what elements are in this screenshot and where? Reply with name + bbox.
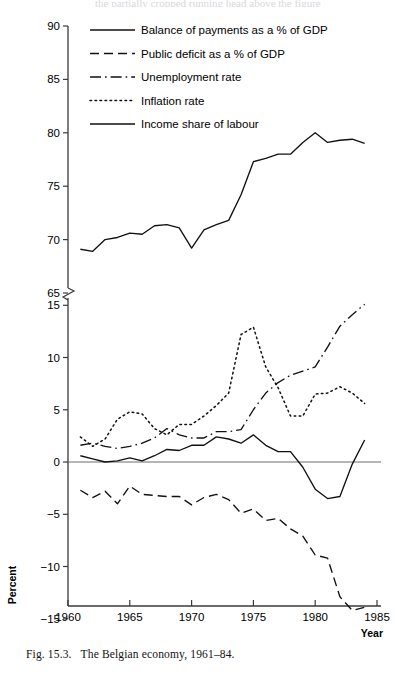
y-tick-label-lower: 10: [47, 352, 60, 364]
axes-layer: [63, 26, 381, 619]
legend-layer: Balance of payments as a % of GDPPublic …: [90, 24, 328, 130]
legend-label-3: Inflation rate: [141, 95, 204, 107]
x-tick-label: 1965: [117, 611, 143, 623]
figure-container: the partially cropped running head above…: [0, 0, 395, 677]
belgian-economy-line-chart: Balance of payments as a % of GDPPublic …: [0, 0, 395, 640]
y-tick-label-upper: 80: [47, 127, 60, 139]
y-tick-label-upper: 65: [47, 287, 60, 299]
x-tick-label: 1985: [364, 611, 390, 623]
y-tick-label-lower: −5: [47, 508, 60, 520]
legend-label-2: Unemployment rate: [141, 71, 241, 83]
y-tick-label-upper: 70: [47, 234, 60, 246]
legend-label-1: Public deficit as a % of GDP: [141, 48, 285, 60]
x-axis-title: Year: [361, 627, 383, 639]
series-line-3: [80, 327, 364, 446]
series-line-2: [80, 304, 364, 448]
figure-caption-text: The Belgian economy, 1961–84.: [81, 648, 235, 660]
y-tick-label-lower: 0: [54, 456, 60, 468]
y-tick-label-upper: 90: [47, 20, 60, 32]
labels-layer: 657075808590−15−10−505101519601965197019…: [6, 20, 390, 639]
y-tick-label-lower: 5: [54, 404, 60, 416]
y-tick-label-upper: 85: [47, 73, 60, 85]
x-tick-label: 1980: [302, 611, 328, 623]
series-line-0: [80, 435, 364, 499]
y-tick-label-lower: −10: [40, 561, 60, 573]
series-layer: [80, 133, 364, 611]
y-tick-label-lower: 15: [47, 299, 60, 311]
x-tick-label: 1975: [241, 611, 267, 623]
legend-label-0: Balance of payments as a % of GDP: [141, 24, 328, 36]
y-tick-label-upper: 75: [47, 180, 60, 192]
series-line-1: [80, 486, 364, 610]
figure-caption: Fig. 15.3.The Belgian economy, 1961–84.: [26, 648, 386, 660]
figure-caption-number: Fig. 15.3.: [26, 648, 72, 660]
x-tick-label: 1970: [179, 611, 205, 623]
legend-label-4: Income share of labour: [141, 118, 259, 130]
y-axis-title: Percent: [6, 565, 18, 604]
series-line-4: [80, 133, 364, 252]
x-tick-label: 1960: [55, 611, 81, 623]
